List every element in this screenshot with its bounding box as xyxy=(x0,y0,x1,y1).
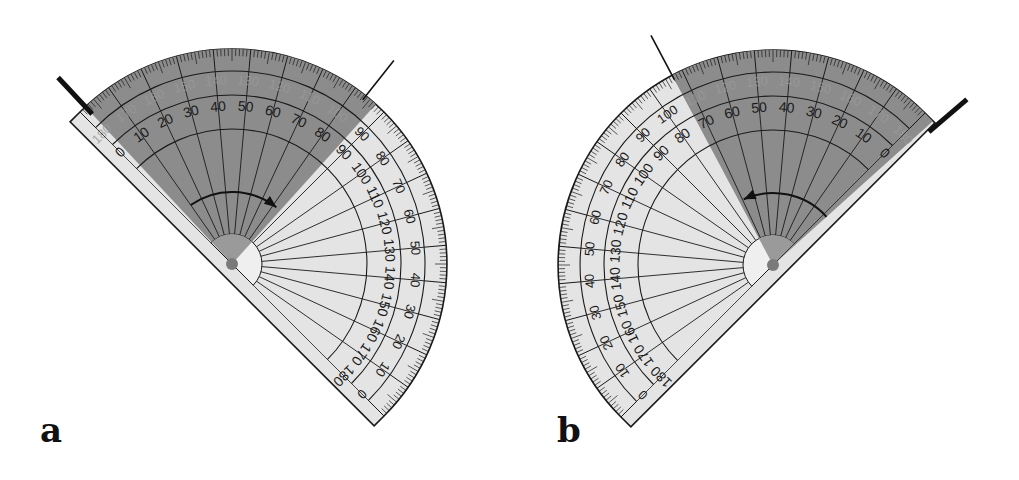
inner-scale-label: 130 xyxy=(381,238,399,263)
outer-scale-label: 140 xyxy=(204,72,227,89)
inner-scale-label: 130 xyxy=(606,239,624,264)
protractor-figure: 0180101702016030150401405013060120701108… xyxy=(0,0,1019,480)
protractor-b: 0180101702016030150401405013060120701108… xyxy=(558,35,967,426)
angle-arm-thick xyxy=(929,99,967,131)
angle-arm-thick xyxy=(58,78,92,115)
inner-scale-label: 40 xyxy=(778,99,795,116)
outer-scale-label: 50 xyxy=(407,240,423,256)
protractor-a: 0180101702016030150401405013060120701108… xyxy=(58,49,447,426)
pivot-point xyxy=(767,259,779,271)
panel-label-b: b xyxy=(557,410,581,450)
outer-scale-label: 50 xyxy=(582,241,598,257)
angle-arm-thin xyxy=(651,35,674,79)
inner-scale-label: 40 xyxy=(210,98,227,115)
outer-scale-label: 130 xyxy=(237,72,260,89)
angle-arm-thin xyxy=(363,61,394,100)
pivot-point xyxy=(226,258,238,270)
inner-scale-label: 140 xyxy=(606,266,624,291)
outer-scale-label: 40 xyxy=(582,273,598,289)
inner-scale-label: 140 xyxy=(381,265,399,290)
inner-scale-label: 50 xyxy=(751,99,768,116)
outer-scale-label: 40 xyxy=(407,272,423,288)
protractor-diagram: 0180101702016030150401405013060120701108… xyxy=(0,0,1019,480)
outer-scale-label: 140 xyxy=(778,73,801,90)
panel-label-a: a xyxy=(40,410,62,450)
inner-scale-label: 50 xyxy=(237,98,254,115)
outer-scale-label: 130 xyxy=(745,73,768,90)
